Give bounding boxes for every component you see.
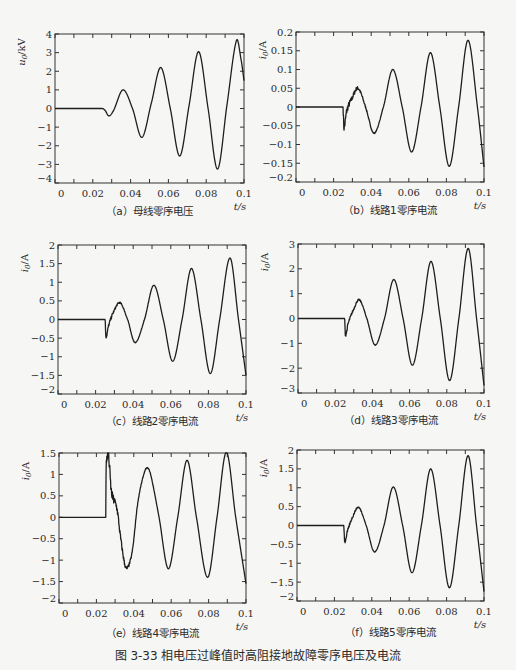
y-axis-label: i0/A xyxy=(259,252,272,271)
x-tick-label: 0.08 xyxy=(197,399,219,410)
y-tick-label: 0 xyxy=(46,103,52,114)
y-axis-label: i0/A xyxy=(20,461,33,480)
x-tick-label: 0.02 xyxy=(82,188,104,199)
x-tick-label: 0.1 xyxy=(476,398,492,409)
y-tick-label: 1 xyxy=(49,277,55,288)
x-tick-label: 0.02 xyxy=(84,399,106,410)
y-tick-label: −1 xyxy=(40,351,55,362)
y-tick-label: −0.05 xyxy=(262,120,293,131)
y-axis-label: i0/A xyxy=(257,40,270,59)
subplot-caption: （f）线路5零序电流 xyxy=(345,626,436,638)
y-tick-label: −2 xyxy=(37,140,52,151)
y-tick-label: 2 xyxy=(46,66,52,77)
y-tick-label: 1 xyxy=(289,288,295,299)
series-line-i0 xyxy=(297,456,484,592)
x-axis-label: t/s xyxy=(236,621,249,632)
y-axis-label: u0/kV xyxy=(16,37,29,65)
y-tick-label: −2 xyxy=(40,384,55,395)
series-line-i0 xyxy=(296,40,484,167)
y-tick-label: 2 xyxy=(49,240,55,251)
subplot-caption: （e）线路4零序电流 xyxy=(106,627,200,639)
y-tick-label: 0.15 xyxy=(271,45,293,56)
x-tick-label: 0.08 xyxy=(195,188,217,199)
y-tick-label: 1.5 xyxy=(278,463,294,474)
x-tick-label: 0.08 xyxy=(435,606,457,617)
y-tick-label: 1 xyxy=(288,482,294,493)
y-tick-label: −2 xyxy=(279,591,294,602)
x-tick-label: 0.08 xyxy=(197,608,219,619)
y-tick-label: −0.1 xyxy=(269,139,293,150)
x-tick-label: 0 xyxy=(61,399,67,410)
panel-d: 00.020.040.060.080.1−3−2−10123t/si0/A（d）… xyxy=(259,239,492,427)
figure: 00.020.040.060.080.1−4−3−2−101234t/su0/k… xyxy=(0,0,516,670)
y-tick-label: −0.5 xyxy=(31,333,55,344)
x-tick-label: 0.02 xyxy=(324,398,346,409)
subplot-caption: （c）线路2零序电流 xyxy=(106,415,199,427)
x-tick-label: 0 xyxy=(299,187,305,198)
y-tick-label: −2 xyxy=(280,363,295,374)
y-tick-label: 0.5 xyxy=(278,501,294,512)
x-axis-label: t/s xyxy=(474,619,487,630)
x-tick-label: 0.1 xyxy=(238,608,254,619)
y-tick-label: 0.5 xyxy=(40,490,56,501)
x-tick-label: 0.1 xyxy=(476,606,492,617)
y-tick-label: 1 xyxy=(46,84,52,95)
y-tick-label: −1 xyxy=(41,555,56,566)
y-tick-label: 1 xyxy=(50,469,56,480)
y-tick-label: 2 xyxy=(289,263,295,274)
figure-caption: 图 3-33 相电压过峰值时高阻接地故障零序电压及电流 xyxy=(115,648,402,663)
y-tick-label: −0.2 xyxy=(269,172,293,183)
y-tick-label: 4 xyxy=(46,29,52,40)
x-tick-label: 0.06 xyxy=(160,399,182,410)
y-tick-label: −1.5 xyxy=(270,577,294,588)
y-tick-label: −1 xyxy=(37,122,52,133)
x-tick-label: 0.1 xyxy=(476,187,492,198)
y-tick-label: 0 xyxy=(288,520,294,531)
y-tick-label: 0 xyxy=(49,314,55,325)
x-tick-label: 0.1 xyxy=(236,188,252,199)
x-tick-label: 0 xyxy=(301,398,307,409)
y-tick-label: 0.2 xyxy=(277,27,293,38)
y-axis-label: i0/A xyxy=(258,458,271,477)
subplot-caption: （d）线路3零序电流 xyxy=(344,414,438,426)
x-tick-label: 0.02 xyxy=(323,606,345,617)
y-tick-label: 0.5 xyxy=(39,295,55,306)
x-tick-label: 0.1 xyxy=(238,399,254,410)
y-tick-label: −1 xyxy=(280,338,295,349)
y-tick-label: 0 xyxy=(289,313,295,324)
y-tick-label: 0.1 xyxy=(277,64,293,75)
y-tick-label: −4 xyxy=(37,173,52,184)
y-tick-label: 3 xyxy=(289,239,295,250)
y-tick-label: −1.5 xyxy=(32,576,56,587)
y-tick-label: 1.5 xyxy=(40,448,56,459)
panel-e: 00.020.040.060.080.1−2−1.5−1−0.500.511.5… xyxy=(20,448,254,640)
panel-b: 00.020.040.060.080.1−0.2−0.15−0.1−0.0500… xyxy=(257,27,492,217)
x-tick-label: 0.02 xyxy=(322,187,344,198)
series-line-i0 xyxy=(298,249,484,386)
panel-c: 00.020.040.060.080.1−2−1.5−1−0.500.511.5… xyxy=(19,240,254,428)
x-tick-label: 0.08 xyxy=(435,187,457,198)
x-tick-label: 0.06 xyxy=(160,608,182,619)
y-tick-label: −0.15 xyxy=(262,158,293,169)
y-tick-label: 0 xyxy=(50,512,56,523)
series-line-i0 xyxy=(59,453,246,584)
y-tick-label: −1 xyxy=(279,558,294,569)
x-tick-label: 0.06 xyxy=(398,187,420,198)
x-tick-label: 0 xyxy=(62,608,68,619)
y-axis-label: i0/A xyxy=(19,253,32,272)
x-axis-label: t/s xyxy=(234,201,247,212)
x-tick-label: 0.04 xyxy=(361,606,383,617)
y-tick-label: −0.5 xyxy=(32,533,56,544)
series-line-i0 xyxy=(58,258,246,375)
panel-f: 00.020.040.060.080.1−2−1.5−1−0.500.511.5… xyxy=(258,445,492,639)
subplot-caption: （a）母线零序电压 xyxy=(106,205,193,217)
series-line-u0 xyxy=(55,40,244,169)
y-tick-label: −3 xyxy=(280,383,295,394)
x-tick-label: 0.06 xyxy=(157,188,179,199)
y-tick-label: 1.5 xyxy=(39,258,55,269)
x-axis-label: t/s xyxy=(474,200,487,211)
y-tick-label: −1.5 xyxy=(31,370,55,381)
panel-a: 00.020.040.060.080.1−4−3−2−101234t/su0/k… xyxy=(16,29,252,218)
x-tick-label: 0.04 xyxy=(119,188,141,199)
y-tick-label: −3 xyxy=(37,159,52,170)
